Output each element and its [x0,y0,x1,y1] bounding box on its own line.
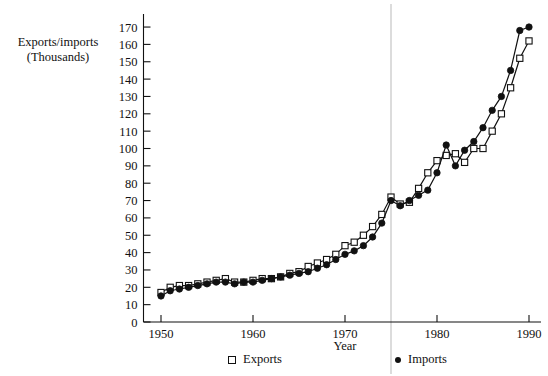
filled-circle-icon [395,357,401,363]
y-tick-label: 70 [125,194,138,208]
data-point-imports-1967 [314,265,320,271]
data-point-imports-1953 [185,284,191,290]
data-point-imports-1957 [222,279,228,285]
data-point-imports-1951 [167,288,173,294]
data-point-imports-1985 [480,124,486,130]
data-point-exports-1990 [526,38,532,44]
data-point-exports-1988 [508,85,514,91]
data-point-exports-1979 [425,170,431,176]
data-point-imports-1971 [351,248,357,254]
x-tick-label: 1960 [241,327,266,341]
data-point-exports-1986 [489,128,495,134]
legend-label-exports: Exports [243,352,282,367]
data-point-imports-1982 [452,163,458,169]
data-point-imports-1988 [507,67,513,73]
data-point-exports-1989 [517,55,523,61]
data-point-imports-1986 [489,107,495,113]
data-point-imports-1958 [231,281,237,287]
plot-area: 0102030405060708090100110120130140150160… [0,0,548,376]
data-point-imports-1978 [415,192,421,198]
legend-item-imports: Imports [395,352,447,367]
data-point-imports-1969 [333,256,339,262]
data-point-imports-1965 [296,270,302,276]
data-point-imports-1981 [443,142,449,148]
y-tick-label: 160 [119,38,138,52]
y-tick-label: 80 [125,177,138,191]
data-point-imports-1966 [305,268,311,274]
data-point-imports-1987 [498,93,504,99]
data-point-exports-1971 [351,239,357,245]
data-point-imports-1955 [204,281,210,287]
data-point-exports-1970 [342,243,348,249]
data-point-exports-1984 [471,145,477,151]
data-point-imports-1959 [241,279,247,285]
y-tick-label: 110 [119,125,137,139]
data-point-imports-1974 [379,220,385,226]
x-tick-label: 1980 [425,327,450,341]
data-point-imports-1977 [406,197,412,203]
x-tick-label: 1990 [517,327,542,341]
data-point-imports-1970 [342,251,348,257]
data-point-imports-1968 [323,262,329,268]
data-point-imports-1952 [176,286,182,292]
y-tick-label: 150 [119,55,138,69]
chart-figure: Exports/imports (Thousands) Year 0102030… [0,0,548,376]
y-tick-label: 40 [125,246,138,260]
data-point-imports-1950 [158,293,164,299]
y-tick-label: 140 [119,73,138,87]
data-point-exports-1978 [416,185,422,191]
y-tick-label: 120 [119,107,138,121]
y-tick-label: 50 [125,229,138,243]
data-point-exports-1972 [360,232,366,238]
data-point-imports-1956 [213,279,219,285]
data-point-exports-1982 [452,151,458,157]
data-point-imports-1964 [287,272,293,278]
data-point-imports-1954 [195,282,201,288]
y-tick-label: 170 [119,21,138,35]
data-point-imports-1979 [425,187,431,193]
open-square-icon [228,356,236,364]
data-point-exports-1983 [462,159,468,165]
data-point-imports-1989 [517,27,523,33]
data-point-imports-1961 [259,277,265,283]
x-tick-label: 1950 [149,327,174,341]
data-point-imports-1980 [434,170,440,176]
y-tick-label: 130 [119,90,138,104]
y-tick-label: 60 [125,211,138,225]
data-point-exports-1987 [498,111,504,117]
x-tick-label: 1970 [333,327,358,341]
y-tick-label: 90 [125,159,138,173]
data-point-imports-1976 [397,203,403,209]
data-point-imports-1963 [277,274,283,280]
y-tick-label: 30 [125,263,138,277]
data-point-imports-1962 [268,275,274,281]
y-tick-label: 10 [125,298,138,312]
data-point-exports-1980 [434,158,440,164]
legend-item-exports: Exports [228,352,282,367]
y-tick-label: 100 [119,142,138,156]
data-point-imports-1983 [461,147,467,153]
data-point-imports-1973 [369,234,375,240]
y-tick-label: 0 [131,316,137,330]
data-point-imports-1960 [250,279,256,285]
data-point-imports-1984 [471,138,477,144]
legend-label-imports: Imports [408,352,447,367]
data-point-imports-1990 [526,24,532,30]
data-point-exports-1985 [480,145,486,151]
data-point-imports-1975 [388,197,394,203]
data-point-exports-1973 [370,223,376,229]
y-tick-label: 20 [125,281,138,295]
data-point-imports-1972 [360,242,366,248]
